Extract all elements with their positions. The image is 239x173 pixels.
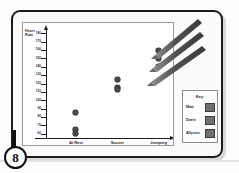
legend-entry-label: Darin: [186, 118, 196, 122]
x-axis-label-jumping-rope: JumpingRope: [137, 141, 174, 146]
y-tick-140: [41, 67, 47, 68]
y-tick-label-150: 150: [26, 57, 41, 60]
legend-color-swatch: [205, 129, 215, 138]
y-tick-100: [41, 100, 47, 101]
y-tick-160: [41, 50, 47, 51]
y-tick-170: [41, 42, 47, 43]
y-tick-70: [41, 125, 47, 126]
y-tick-60: [41, 134, 47, 135]
y-tick-label-70: 70: [26, 124, 41, 127]
worksheet-frame: Heart Rate 18017016015014013012011010090…: [11, 10, 223, 158]
worksheet-page: Heart Rate 18017016015014013012011010090…: [0, 0, 239, 173]
legend-entry-darin: Darin: [186, 115, 216, 124]
y-tick-120: [41, 84, 47, 85]
x-axis-label-line1: At Rest: [54, 141, 98, 146]
y-tick-110: [41, 92, 47, 93]
y-tick-label-180: 180: [26, 32, 41, 35]
legend-color-swatch: [205, 116, 215, 125]
y-tick-180: [41, 33, 47, 34]
legend-entry-label: Matt: [186, 105, 194, 109]
y-tick-label-110: 110: [26, 90, 41, 93]
y-tick-label-170: 170: [26, 40, 41, 43]
y-tick-label-60: 60: [26, 132, 41, 135]
y-tick-label-140: 140: [26, 65, 41, 68]
legend-entry-matt: Matt: [186, 102, 216, 111]
x-axis-label-soccer: Soccer: [95, 141, 139, 146]
page-bottom-edge: [0, 160, 239, 162]
y-tick-90: [41, 109, 47, 110]
page-number-badge: 8: [4, 146, 27, 169]
legend-entry-label: Allyson: [186, 131, 200, 135]
y-tick-150: [41, 58, 47, 59]
legend-title: Key:: [183, 94, 217, 99]
x-axis-label-line1: Soccer: [95, 141, 139, 146]
y-tick-130: [41, 75, 47, 76]
data-point: [156, 48, 161, 53]
legend-entry-allyson: Allyson: [186, 128, 216, 137]
data-point: [156, 56, 161, 61]
legend-key-box: Key: MattDarinAllyson: [182, 90, 218, 143]
data-point: [115, 77, 120, 82]
plot-area: Heart Rate 18017016015014013012011010090…: [23, 23, 173, 145]
y-tick-label-100: 100: [26, 99, 41, 102]
y-tick-label-130: 130: [26, 73, 41, 76]
x-axis-label-at-rest: At Rest: [54, 141, 98, 146]
y-tick-label-120: 120: [26, 82, 41, 85]
y-tick-label-80: 80: [26, 115, 41, 118]
y-tick-label-160: 160: [26, 48, 41, 51]
y-axis-ticks: 18017016015014013012011010090807060: [23, 23, 173, 145]
y-tick-80: [41, 117, 47, 118]
scatter-plot-panel: Heart Rate 18017016015014013012011010090…: [22, 22, 174, 146]
y-tick-label-90: 90: [26, 107, 41, 110]
data-point: [115, 87, 120, 92]
legend-color-swatch: [205, 103, 215, 112]
